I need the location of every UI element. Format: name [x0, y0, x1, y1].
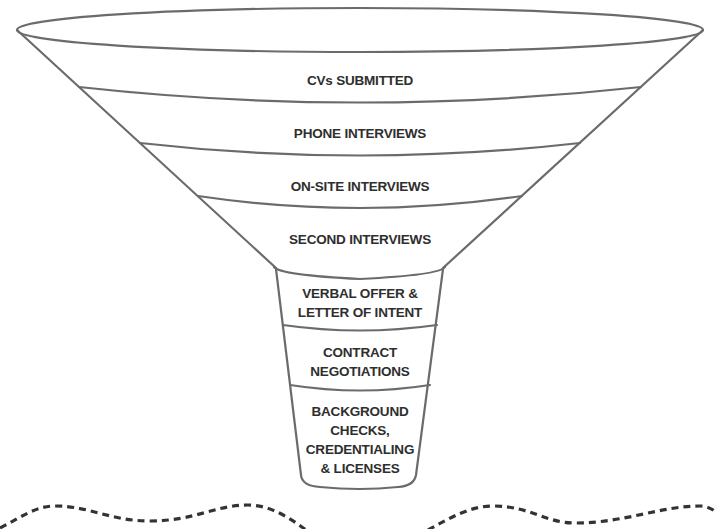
- stage-verbal-offer-line-1: VERBAL OFFER &: [298, 284, 422, 303]
- funnel-diagram: CVs SUBMITTED PHONE INTERVIEWS ON-SITE I…: [0, 0, 717, 529]
- separator-3: [198, 196, 522, 208]
- stage-contract-line-2: NEGOTIATIONS: [310, 362, 409, 381]
- stage-cvs-submitted: CVs SUBMITTED: [307, 71, 413, 90]
- stage-background-line-1: BACKGROUND: [306, 402, 414, 421]
- stage-background-checks: BACKGROUND CHECKS, CREDENTIALING & LICEN…: [306, 402, 414, 478]
- funnel-left-edge: [17, 30, 276, 268]
- stage-contract-negotiations: CONTRACT NEGOTIATIONS: [310, 343, 409, 381]
- stage-on-site-interviews: ON-SITE INTERVIEWS: [291, 177, 430, 196]
- stage-background-line-4: & LICENSES: [306, 459, 414, 478]
- funnel-rim: [17, 8, 703, 52]
- stage-verbal-offer: VERBAL OFFER & LETTER OF INTENT: [298, 284, 422, 322]
- separator-2: [140, 143, 580, 156]
- dashed-wave-left: [0, 505, 306, 529]
- stage-background-line-2: CHECKS,: [306, 421, 414, 440]
- stage-verbal-offer-line-2: LETTER OF INTENT: [298, 303, 422, 322]
- stage-second-interviews: SECOND INTERVIEWS: [289, 230, 431, 249]
- stage-background-line-3: CREDENTIALING: [306, 440, 414, 459]
- separator-5: [290, 385, 430, 391]
- neck-top: [274, 267, 445, 279]
- dashed-wave-right: [428, 506, 717, 529]
- stage-contract-line-1: CONTRACT: [310, 343, 409, 362]
- stage-phone-interviews: PHONE INTERVIEWS: [294, 124, 426, 143]
- separator-4: [283, 325, 437, 331]
- funnel-right-edge: [443, 30, 703, 268]
